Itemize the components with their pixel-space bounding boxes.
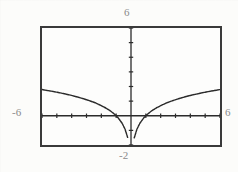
x-min-label: -6 — [12, 106, 21, 118]
x-max-label: 6 — [225, 106, 231, 118]
plot-frame — [40, 26, 222, 147]
y-min-label: -2 — [119, 149, 128, 161]
y-axis — [129, 28, 133, 145]
plot-canvas — [42, 28, 220, 145]
y-max-label: 6 — [124, 6, 130, 18]
calculator-screen: 6 -2 -6 6 — [0, 0, 238, 172]
